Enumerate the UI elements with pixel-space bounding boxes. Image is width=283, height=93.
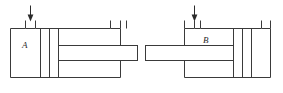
piston-block [234,29,243,78]
inlet-arrow-icon [28,6,34,22]
piston-rod [146,46,234,61]
chamber-label-a: A [21,40,28,50]
chamber-label-b: B [203,35,209,45]
piston-block [41,29,50,78]
figure-a-cylinder: A [0,0,141,93]
hydraulic-cylinder-diagram: A B [0,0,283,93]
inlet-arrow-icon [192,6,198,22]
port-right-fitting-outer [121,21,127,29]
port-right-fitting-inner [262,21,271,29]
port-left-fitting [26,21,36,29]
port-left-fitting-inner [195,21,201,29]
figure-b-cylinder: B [141,0,283,93]
piston-rod [59,46,138,61]
